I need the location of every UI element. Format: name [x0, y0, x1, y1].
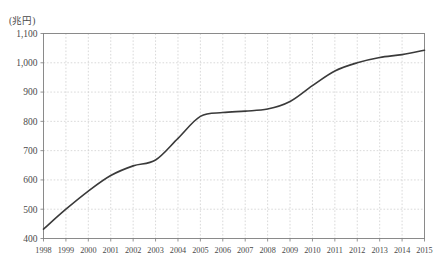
x-tick-label: 2009 [282, 246, 298, 255]
x-tick-label: 2005 [192, 246, 208, 255]
x-tick-label: 2010 [304, 246, 320, 255]
x-tick-label: 2003 [147, 246, 163, 255]
x-tick-label: 2007 [237, 246, 253, 255]
chart-plot-area: 1,1001,000900800700600500400 19981999200… [0, 0, 441, 264]
x-tick-label: 2015 [416, 246, 432, 255]
y-tick-label: 1,000 [16, 58, 38, 68]
y-axis-tick-labels: 1,1001,000900800700600500400 [16, 29, 38, 244]
x-tick-label: 2001 [103, 246, 119, 255]
x-tick-label: 2004 [170, 246, 186, 255]
x-tick-label: 2000 [80, 246, 96, 255]
line-chart: (兆円) 1,1001,000900800700600500400 199819… [0, 0, 441, 264]
x-tick-label: 2014 [394, 246, 410, 255]
y-tick-label: 900 [23, 87, 38, 97]
y-tick-label: 800 [23, 117, 38, 127]
x-tick-label: 2011 [327, 246, 343, 255]
x-tick-label: 1999 [58, 246, 74, 255]
y-tick-label: 1,100 [16, 29, 38, 39]
x-tick-label: 2012 [349, 246, 365, 255]
x-tick-label: 2002 [125, 246, 141, 255]
y-tick-label: 400 [23, 234, 38, 244]
horizontal-gridlines [44, 63, 425, 209]
plot-frame-border [44, 34, 425, 239]
y-tick-label: 500 [23, 205, 38, 215]
data-series-line [44, 50, 425, 229]
x-tick-label: 1998 [35, 246, 51, 255]
x-axis-tick-labels: 1998199920002001200220032004200520062007… [35, 246, 432, 255]
x-tick-label: 2008 [259, 246, 275, 255]
y-tick-label: 600 [23, 175, 38, 185]
y-tick-label: 700 [23, 146, 38, 156]
x-tick-label: 2006 [215, 246, 231, 255]
x-tick-label: 2013 [371, 246, 387, 255]
